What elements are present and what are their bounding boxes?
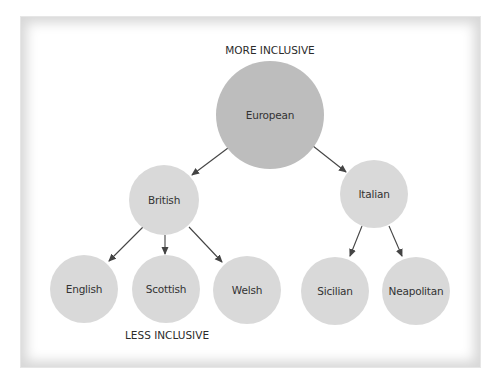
arrow-italian-to-sicilian xyxy=(350,226,362,256)
arrow-british-to-welsh xyxy=(189,227,222,262)
node-label-welsh: Welsh xyxy=(232,284,262,296)
node-label-scottish: Scottish xyxy=(146,283,187,295)
node-label-neapolitan: Neapolitan xyxy=(389,285,444,297)
less-inclusive-label: LESS INCLUSIVE xyxy=(125,329,209,341)
arrow-european-to-british xyxy=(192,148,228,175)
hierarchy-diagram xyxy=(0,0,492,383)
node-label-british: British xyxy=(148,194,180,206)
arrow-european-to-italian xyxy=(313,146,346,172)
node-label-sicilian: Sicilian xyxy=(317,285,353,297)
node-label-english: English xyxy=(66,283,103,295)
more-inclusive-label: MORE INCLUSIVE xyxy=(225,44,314,56)
node-label-italian: Italian xyxy=(358,188,389,200)
node-label-european: European xyxy=(246,109,294,121)
arrow-italian-to-neapolitan xyxy=(389,226,402,256)
arrow-british-to-english xyxy=(109,227,143,261)
